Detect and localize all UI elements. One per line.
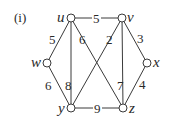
node-label-u: u xyxy=(57,9,65,25)
weight-u-y: 8 xyxy=(65,78,72,93)
weight-u-z: 6 xyxy=(79,32,86,47)
node-x xyxy=(143,59,151,67)
node-z xyxy=(119,104,127,112)
node-y xyxy=(67,104,75,112)
node-label-w: w xyxy=(31,54,41,70)
weight-v-x: 3 xyxy=(137,31,144,46)
weight-v-z: 7 xyxy=(117,78,124,93)
figure-tag: (i) xyxy=(14,10,26,25)
node-label-z: z xyxy=(128,100,135,116)
weight-u-w: 5 xyxy=(49,32,56,47)
node-label-y: y xyxy=(56,100,65,116)
edges xyxy=(47,18,147,108)
node-v xyxy=(118,14,126,22)
node-label-x: x xyxy=(152,54,160,70)
edge-v-z xyxy=(122,18,123,108)
node-u xyxy=(67,14,75,22)
weight-x-z: 4 xyxy=(139,77,146,92)
weighted-graph: (i) 5 5 8 6 2 7 3 6 4 9 xyxy=(0,0,170,123)
weight-w-y: 6 xyxy=(45,78,52,93)
node-w xyxy=(43,59,51,67)
weight-v-y: 2 xyxy=(106,32,113,47)
weight-y-z: 9 xyxy=(94,101,101,116)
weight-u-v: 5 xyxy=(93,11,100,26)
node-label-v: v xyxy=(127,9,134,25)
